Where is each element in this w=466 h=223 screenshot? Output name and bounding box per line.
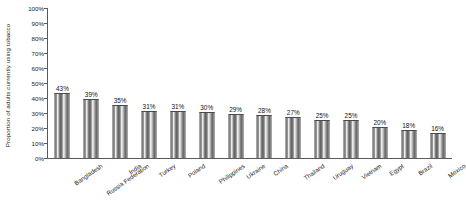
bar[interactable] — [141, 111, 156, 159]
x-tick-label: Thailand — [303, 162, 326, 181]
y-tick-mark — [44, 53, 47, 54]
bar-value-label: 39% — [85, 91, 98, 98]
bar[interactable] — [343, 120, 358, 159]
bar-group[interactable]: 29% — [221, 8, 250, 158]
y-tick-label: 90% — [16, 20, 44, 27]
x-tick-label: China — [272, 162, 289, 177]
y-tick-mark — [44, 113, 47, 114]
bar[interactable] — [55, 93, 70, 159]
bar[interactable] — [257, 115, 272, 158]
x-tick-label: Bangladesh — [73, 162, 104, 186]
x-tick-label: Ukraine — [244, 162, 265, 180]
bar-group[interactable]: 39% — [77, 8, 106, 158]
bar[interactable] — [401, 130, 416, 158]
x-tick-label: Poland — [186, 162, 206, 179]
x-tick-label: Turkey — [157, 162, 176, 178]
x-tick-label: Uruguay — [331, 162, 354, 181]
y-axis-title-text: Proportion of adults currently using tob… — [5, 23, 12, 146]
y-tick-mark — [44, 83, 47, 84]
bar[interactable] — [170, 111, 185, 159]
bar[interactable] — [228, 114, 243, 159]
bar[interactable] — [113, 105, 128, 159]
bar-group[interactable]: 28% — [250, 8, 279, 158]
x-tick-label: Mexico — [446, 162, 466, 179]
y-tick-label: 40% — [16, 95, 44, 102]
bar-group[interactable]: 30% — [192, 8, 221, 158]
bar-value-label: 27% — [287, 109, 300, 116]
bar-value-label: 35% — [114, 97, 127, 104]
x-axis-line — [47, 158, 452, 159]
bar-value-label: 43% — [56, 85, 69, 92]
x-tick-label: Brazil — [417, 162, 434, 177]
bar-group[interactable]: 35% — [106, 8, 135, 158]
bar-group[interactable]: 31% — [163, 8, 192, 158]
bar-group[interactable]: 43% — [48, 8, 77, 158]
bar-group[interactable]: 25% — [337, 8, 366, 158]
bar-group[interactable]: 27% — [279, 8, 308, 158]
y-tick-label: 30% — [16, 110, 44, 117]
bar-group[interactable]: 25% — [308, 8, 337, 158]
bar[interactable] — [430, 133, 445, 158]
y-tick-label: 60% — [16, 65, 44, 72]
x-tick-label: Russia Federation — [105, 162, 150, 197]
bar[interactable] — [199, 112, 214, 158]
bar-value-label: 25% — [345, 112, 358, 119]
y-tick-mark — [44, 8, 47, 9]
y-tick-mark — [44, 143, 47, 144]
bar-value-label: 16% — [431, 125, 444, 132]
bar-value-label: 29% — [229, 106, 242, 113]
bar-group[interactable]: 16% — [423, 8, 452, 158]
x-tick-label: Vietnam — [360, 162, 383, 181]
bar-value-label: 31% — [171, 103, 184, 110]
bar-group[interactable]: 31% — [135, 8, 164, 158]
bar[interactable] — [84, 99, 99, 159]
y-tick-mark — [44, 23, 47, 24]
bar-value-label: 31% — [143, 103, 156, 110]
bar-value-label: 28% — [258, 107, 271, 114]
y-tick-mark — [44, 38, 47, 39]
bar[interactable] — [372, 127, 387, 158]
y-tick-mark — [44, 128, 47, 129]
y-tick-mark — [44, 158, 47, 159]
y-axis-tick-labels: 0%10%20%30%40%50%60%70%80%90%100% — [16, 8, 44, 158]
plot-area: 43%39%35%31%31%30%29%28%27%25%25%20%18%1… — [48, 8, 452, 158]
y-tick-label: 0% — [16, 155, 44, 162]
bar-value-label: 25% — [316, 112, 329, 119]
x-axis-tick-labels: BangladeshRussia FederationIndiaTurkeyPo… — [48, 160, 452, 223]
x-tick-label: Egypt — [388, 162, 405, 177]
x-tick-label: Philippines — [217, 162, 246, 185]
y-tick-label: 10% — [16, 140, 44, 147]
bar-value-label: 30% — [200, 104, 213, 111]
y-tick-label: 100% — [16, 5, 44, 12]
y-tick-label: 80% — [16, 35, 44, 42]
y-tick-label: 70% — [16, 50, 44, 57]
y-tick-mark — [44, 98, 47, 99]
y-tick-label: 50% — [16, 80, 44, 87]
bar[interactable] — [286, 117, 301, 159]
bar-group[interactable]: 18% — [394, 8, 423, 158]
y-tick-label: 20% — [16, 125, 44, 132]
bar[interactable] — [315, 120, 330, 159]
bar-group[interactable]: 20% — [365, 8, 394, 158]
y-axis-title: Proportion of adults currently using tob… — [0, 0, 16, 170]
bar-value-label: 18% — [402, 122, 415, 129]
y-tick-mark — [44, 68, 47, 69]
bar-value-label: 20% — [373, 119, 386, 126]
